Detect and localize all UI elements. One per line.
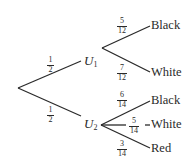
- prob-denominator: 12: [117, 27, 127, 35]
- prob-denominator: 2: [48, 116, 54, 124]
- prob-denominator: 14: [117, 101, 127, 109]
- prob-root-u1: 1 2: [47, 56, 54, 74]
- prob-numerator: 1: [48, 56, 54, 64]
- prob-numerator: 6: [119, 91, 125, 99]
- node-u1: U1: [84, 54, 97, 71]
- prob-denominator: 14: [129, 127, 139, 135]
- prob-u1-white: 7 12: [117, 64, 127, 82]
- node-subscript: 2: [93, 123, 97, 132]
- prob-u2-red: 3 14: [117, 140, 127, 158]
- prob-u2-black: 6 14: [117, 91, 127, 109]
- prob-root-u2: 1 2: [47, 106, 54, 124]
- node-u2: U2: [84, 117, 97, 134]
- prob-numerator: 3: [119, 140, 125, 148]
- prob-u2-white: 5 14: [129, 117, 139, 135]
- leaf-u1-black: Black: [151, 19, 180, 32]
- prob-numerator: 5: [119, 17, 125, 25]
- leaf-u1-white: White: [151, 66, 182, 79]
- leaf-u2-white: White: [151, 118, 182, 131]
- node-subscript: 1: [93, 60, 97, 69]
- node-label: U: [84, 53, 93, 68]
- leaf-u2-red: Red: [151, 142, 171, 155]
- prob-u1-black: 5 12: [117, 17, 127, 35]
- prob-numerator: 7: [119, 64, 125, 72]
- prob-numerator: 1: [48, 106, 54, 114]
- node-label: U: [84, 116, 93, 131]
- prob-denominator: 14: [117, 150, 127, 158]
- prob-denominator: 12: [117, 74, 127, 82]
- prob-numerator: 5: [131, 117, 137, 125]
- prob-denominator: 2: [48, 66, 54, 74]
- leaf-u2-black: Black: [151, 94, 180, 107]
